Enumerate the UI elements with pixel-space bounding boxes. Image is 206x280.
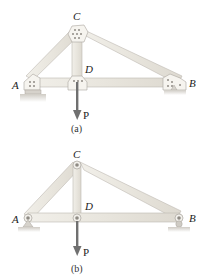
label-B-a: B — [189, 77, 196, 89]
member-AB-chord — [28, 213, 180, 222]
truss-figure: C A D B P (a) — [0, 0, 206, 280]
member-CD — [73, 166, 81, 218]
load-arrow-P-b — [73, 221, 82, 256]
members-a — [26, 28, 182, 87]
gusset-C — [68, 25, 88, 42]
label-B-b: B — [189, 212, 196, 224]
label-P-b: P — [83, 246, 89, 258]
support-A-a — [20, 90, 46, 102]
member-CB — [80, 162, 181, 219]
label-P-a: P — [83, 109, 89, 121]
label-C-a: C — [73, 10, 81, 22]
members-b — [24, 162, 181, 222]
member-AB-chord — [30, 78, 180, 87]
label-D-b: D — [84, 200, 93, 212]
figure-b: C A D B P (b) — [11, 148, 196, 275]
caption-a: (a) — [71, 123, 82, 135]
label-C-b: C — [73, 148, 81, 160]
support-B-b — [168, 221, 190, 232]
label-A-b: A — [11, 213, 19, 225]
member-AC — [24, 162, 80, 220]
label-A-a: A — [11, 79, 19, 91]
caption-b: (b) — [71, 263, 83, 275]
label-D-a: D — [84, 63, 93, 75]
figure-a: C A D B P (a) — [11, 10, 196, 135]
